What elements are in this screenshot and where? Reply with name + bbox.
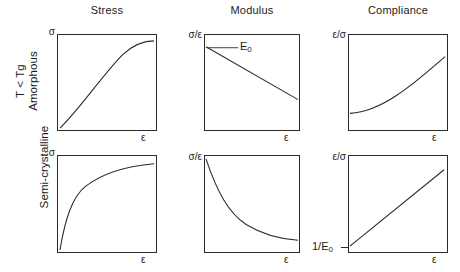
curve-stress-amorphous [58, 35, 156, 130]
curve-modulus-amorphous [205, 35, 299, 130]
panel-compliance-semicrystalline [348, 155, 448, 253]
x-axis-label-stress-amorphous: ε [141, 132, 145, 143]
column-header-stress: Stress [57, 4, 157, 16]
panel-stress-amorphous [57, 34, 157, 131]
curve-compliance-amorphous [349, 35, 447, 130]
column-header-compliance: Compliance [348, 4, 448, 16]
panel-modulus-amorphous [204, 34, 300, 131]
x-axis-label-compliance-semicrystalline: ε [432, 254, 436, 265]
y-axis-label-stress-semicrystalline: σ [32, 147, 55, 158]
x-axis-label-modulus-semicrystalline: ε [284, 254, 288, 265]
annotation-e0-modulus-amorphous: E0 [240, 40, 252, 52]
annotation-inverse-e0-compliance-semicrystalline: 1/E0 [312, 240, 333, 252]
row-label-semicrystalline: Semi-crystalline [38, 101, 50, 233]
y-axis-label-modulus-semicrystalline: σ/ε [176, 151, 202, 162]
panel-compliance-amorphous [348, 34, 448, 131]
y-axis-label-stress-amorphous: σ [32, 26, 55, 37]
x-axis-label-compliance-amorphous: ε [432, 132, 436, 143]
curve-modulus-semicrystalline [205, 156, 299, 252]
leader-line-inverse-e0 [341, 247, 349, 248]
y-axis-label-compliance-amorphous: ε/σ [320, 29, 346, 40]
panel-stress-semicrystalline [57, 155, 157, 253]
annotation-e0-subscript: 0 [247, 45, 251, 54]
column-header-modulus: Modulus [204, 4, 300, 16]
curve-stress-semicrystalline [58, 156, 156, 252]
curve-compliance-semicrystalline [349, 156, 447, 252]
x-axis-label-stress-semicrystalline: ε [141, 254, 145, 265]
x-axis-label-modulus-amorphous: ε [284, 132, 288, 143]
y-axis-label-compliance-semicrystalline: ε/σ [320, 151, 346, 162]
annotation-inverse-e0-text: 1/E [312, 240, 329, 252]
figure-panel-grid: Stress Modulus Compliance T < Tg Amorpho… [0, 0, 460, 272]
y-axis-label-modulus-amorphous: σ/ε [176, 29, 202, 40]
panel-modulus-semicrystalline [204, 155, 300, 253]
row-label-amorphous-line1: T < Tg [14, 31, 26, 131]
annotation-inverse-e0-subscript: 0 [329, 245, 333, 254]
